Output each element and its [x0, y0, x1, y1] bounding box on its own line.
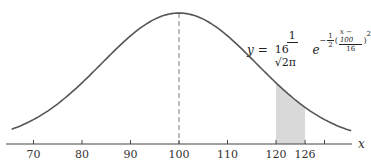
eq-equals: =	[258, 43, 268, 57]
eq-num: 1	[287, 30, 298, 43]
x-axis-label: x	[358, 137, 365, 151]
eq-inner-den: 16	[346, 45, 355, 53]
x-tick-label: 90	[124, 148, 138, 161]
eq-e: e	[312, 43, 319, 57]
eq-inner: x − 100 16	[339, 28, 363, 53]
x-tick-label: 110	[217, 148, 238, 161]
x-tick-label: 120	[266, 148, 287, 161]
eq-half-den: 2	[328, 41, 332, 49]
eq-den: 16 √2π	[275, 43, 310, 69]
eq-exponent: − 1 2 ( x − 100 16 ) 2	[320, 28, 371, 53]
normal-curve-chart: 708090100110120126 x	[0, 0, 371, 162]
shaded-area-120-126	[276, 83, 305, 144]
eq-minus: −	[320, 36, 327, 45]
eq-square: 2	[367, 30, 371, 38]
x-tick-label: 80	[75, 148, 89, 161]
x-tick-label: 126	[295, 148, 316, 161]
eq-half-num: 1	[327, 32, 333, 41]
equation-label: y = 1 16 √2π e − 1 2 ( x − 100 16 ) 2	[247, 30, 371, 69]
x-tick-label: 100	[169, 148, 190, 161]
eq-inner-num: x − 100	[339, 28, 363, 45]
eq-y: y	[247, 43, 254, 57]
eq-half: 1 2	[327, 32, 333, 49]
eq-coefficient: 1 16 √2π	[275, 30, 310, 69]
x-tick-label: 70	[27, 148, 41, 161]
